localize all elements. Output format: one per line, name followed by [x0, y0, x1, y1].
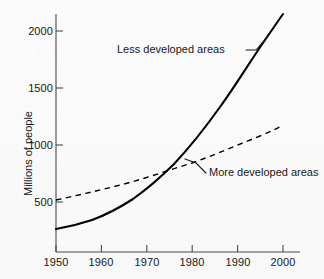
x-tick-label-2000: 2000 — [259, 256, 307, 268]
series-line-more-developed-areas — [56, 125, 283, 200]
y-axis-title: Millions of people — [22, 111, 34, 196]
x-tick-label-1990: 1990 — [214, 256, 262, 268]
y-axis-ticks — [56, 31, 63, 202]
series-annotation-less-developed-areas: Less developed areas — [117, 43, 225, 55]
chart-figure: 2000 1500 1000 500 1950 1960 1970 1980 1… — [0, 0, 324, 279]
y-tick-label-1500: 1500 — [10, 82, 53, 94]
x-tick-label-1960: 1960 — [77, 256, 125, 268]
leader-line-less-developed-areas — [246, 36, 268, 50]
x-tick-label-1970: 1970 — [123, 256, 171, 268]
y-tick-label-500: 500 — [10, 196, 53, 208]
x-tick-label-1980: 1980 — [168, 256, 216, 268]
series-annotation-more-developed-areas: More developed areas — [209, 166, 318, 178]
y-tick-label-2000: 2000 — [10, 25, 53, 37]
x-axis-ticks — [56, 245, 283, 252]
x-tick-label-1950: 1950 — [32, 256, 80, 268]
